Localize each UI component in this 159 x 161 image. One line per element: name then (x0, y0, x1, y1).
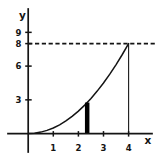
x-axis-label: x (145, 134, 152, 146)
y-tick-label: 3 (16, 95, 22, 105)
function-graph-figure: 12343689 y x (0, 0, 159, 161)
x-tick-label: 1 (50, 143, 56, 153)
y-axis-label: y (19, 9, 26, 21)
x-tick-label: 3 (101, 143, 107, 153)
y-tick-label: 9 (16, 28, 22, 38)
y-tick-label: 6 (16, 61, 22, 71)
curve-chart: 12343689 y x (0, 0, 159, 161)
x-tick-label: 2 (75, 143, 81, 153)
curve-path (28, 44, 128, 134)
y-tick-label: 8 (16, 39, 22, 49)
x-tick-label: 4 (126, 143, 132, 153)
